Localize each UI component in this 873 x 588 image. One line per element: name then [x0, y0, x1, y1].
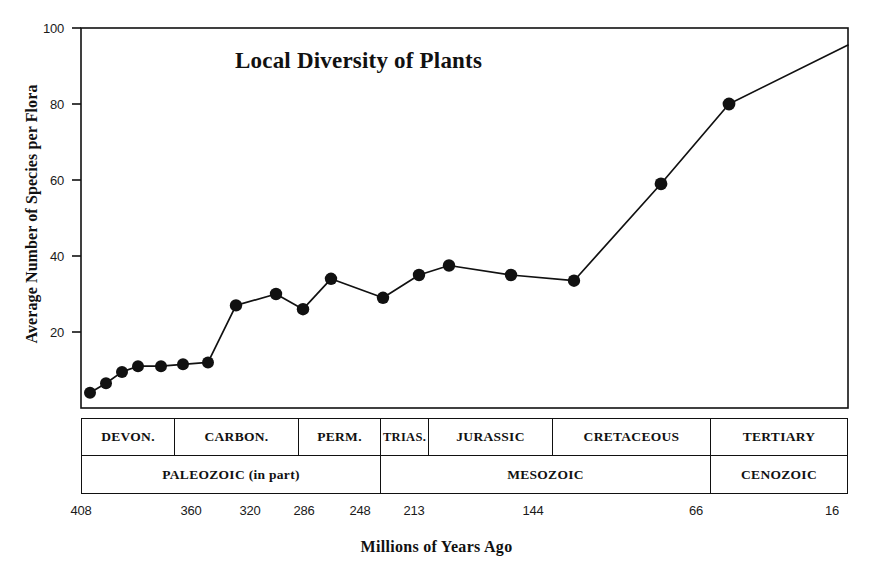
- timescale-era-cell: PALEOZOIC (in part): [82, 456, 381, 493]
- plot-area: [0, 0, 873, 588]
- x-tick-label: 248: [340, 503, 380, 518]
- timescale-period-row: DEVON. CARBON. PERM. TRIAS. JURASSIC CRE…: [82, 419, 847, 456]
- timescale-period-cell: JURASSIC: [429, 419, 553, 455]
- y-tick-label: 60: [30, 173, 64, 188]
- plot-frame: [81, 28, 848, 408]
- geologic-timescale-table: DEVON. CARBON. PERM. TRIAS. JURASSIC CRE…: [81, 418, 848, 494]
- data-markers: [84, 98, 735, 399]
- x-tick-label: 213: [394, 503, 434, 518]
- timescale-period-cell: CARBON.: [175, 419, 299, 455]
- timescale-period-cell: DEVON.: [82, 419, 175, 455]
- x-tick-label: 408: [61, 503, 101, 518]
- x-tick-label: 320: [230, 503, 270, 518]
- timescale-period-cell: TERTIARY: [711, 419, 847, 455]
- timescale-era-row: PALEOZOIC (in part) MESOZOIC CENOZOIC: [82, 456, 847, 493]
- timescale-period-cell: PERM.: [299, 419, 381, 455]
- timescale-period-cell: CRETACEOUS: [553, 419, 711, 455]
- timescale-era-cell: MESOZOIC: [381, 456, 711, 493]
- chart-figure: Average Number of Species per Flora Loca…: [0, 0, 873, 588]
- y-tick-label: 100: [30, 21, 64, 36]
- x-tick-label: 286: [284, 503, 324, 518]
- data-line: [90, 45, 848, 393]
- x-axis-title: Millions of Years Ago: [0, 538, 873, 556]
- x-tick-label: 360: [171, 503, 211, 518]
- timescale-period-cell: TRIAS.: [381, 419, 429, 455]
- x-tick-label: 16: [812, 503, 852, 518]
- y-tick-label: 20: [30, 325, 64, 340]
- y-tick-label: 80: [30, 97, 64, 112]
- y-axis-ticks: [72, 28, 81, 332]
- timescale-era-cell: CENOZOIC: [711, 456, 847, 493]
- x-tick-label: 66: [676, 503, 716, 518]
- y-tick-label: 40: [30, 249, 64, 264]
- x-tick-label: 144: [513, 503, 553, 518]
